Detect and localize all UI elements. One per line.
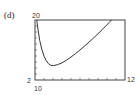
plot-area bbox=[0, 0, 135, 95]
data-curve bbox=[37, 20, 112, 66]
